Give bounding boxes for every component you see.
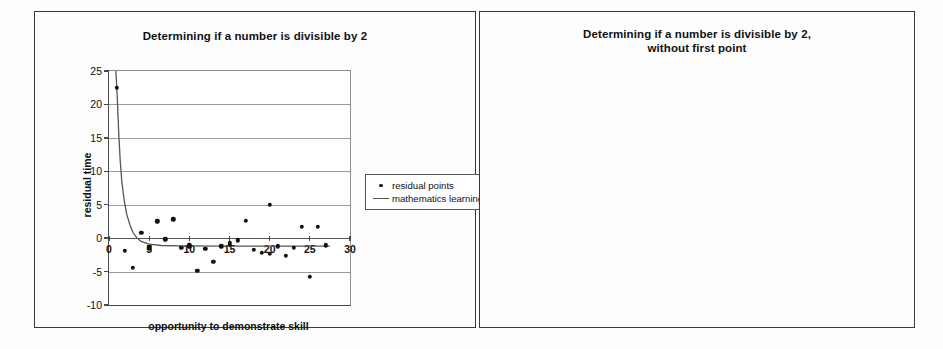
chart-right: Determining if a number is divisible by … xyxy=(480,12,914,327)
y-axis-tick-label: 20 xyxy=(90,98,102,110)
chart-title-left-line1: Determining if a number is divisible by … xyxy=(143,30,368,42)
dot-marker-icon xyxy=(370,184,392,188)
chart-title-right-line2: without first point xyxy=(480,42,914,56)
legend-label: residual points xyxy=(392,180,454,191)
plot-area-left: -10-50510152025051015202530 xyxy=(108,70,351,306)
chart-panel-right: Determining if a number is divisible by … xyxy=(479,11,915,328)
y-axis-tick-label: 5 xyxy=(96,199,102,211)
chart-title-right: Determining if a number is divisible by … xyxy=(480,28,914,55)
y-axis-tick-label: 25 xyxy=(90,65,102,77)
chart-left: Determining if a number is divisible by … xyxy=(35,12,475,327)
chart-title-right-line1: Determining if a number is divisible by … xyxy=(583,28,811,40)
y-axis-tick-label: -5 xyxy=(93,266,102,278)
chart-panel-left: Determining if a number is divisible by … xyxy=(34,11,476,328)
chart-title-left: Determining if a number is divisible by … xyxy=(35,30,475,44)
y-axis-tick-label: 0 xyxy=(96,232,102,244)
line-marker-icon xyxy=(370,198,392,199)
x-axis-title-left: opportunity to demonstrate skill xyxy=(108,320,349,332)
learning-curve xyxy=(109,71,350,305)
figure-root: Determining if a number is divisible by … xyxy=(0,0,943,349)
y-axis-tick-label: -10 xyxy=(87,299,102,311)
y-axis-title-left: residual time xyxy=(81,140,93,230)
